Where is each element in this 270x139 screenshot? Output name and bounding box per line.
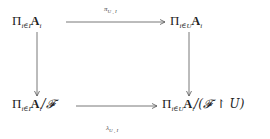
arrows-layer [0,0,270,139]
